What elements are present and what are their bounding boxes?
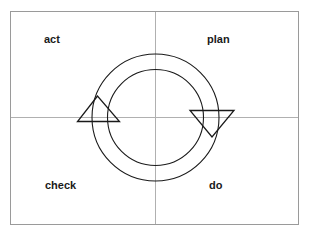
label-plan: plan	[207, 33, 230, 45]
pdca-diagram: act plan check do	[0, 0, 309, 234]
label-check: check	[45, 179, 77, 191]
label-do: do	[209, 179, 223, 191]
label-act: act	[44, 33, 60, 45]
